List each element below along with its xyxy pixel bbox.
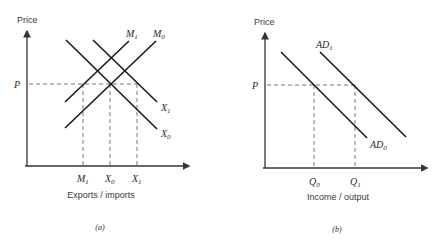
- panel-a-y-axis-label: Price: [17, 15, 38, 25]
- panel-b-price-label: P: [251, 80, 258, 91]
- curve-ad1: [320, 52, 406, 137]
- tick-x1: X1: [131, 173, 142, 186]
- panel-b-y-axis-label: Price: [254, 17, 275, 27]
- label-ad1: AD1: [315, 39, 333, 52]
- panel-a-x-axis-label: Exports / imports: [67, 190, 135, 200]
- label-x1: X1: [160, 102, 171, 115]
- panel-a: Price P M1 M0 X1 X0 M1 X0 X1 Exports / i…: [13, 15, 189, 232]
- label-ad0: AD0: [369, 139, 387, 152]
- label-x0: X0: [160, 128, 171, 141]
- label-m1: M1: [125, 28, 138, 41]
- diagram-canvas: Price P M1 M0 X1 X0 M1 X0 X1 Exports / i…: [0, 0, 433, 247]
- tick-q0: Q0: [309, 176, 320, 189]
- panel-b-x-axis-label: Income / output: [307, 192, 370, 202]
- panel-a-caption: (a): [95, 223, 105, 232]
- tick-x0: X0: [104, 173, 115, 186]
- label-m0: M0: [152, 28, 165, 41]
- curve-ad0: [281, 52, 367, 138]
- panel-b: Price P AD1 AD0 Q0 Q1 Income / output (b…: [251, 17, 427, 234]
- tick-m1: M1: [76, 173, 89, 186]
- panel-a-price-label: P: [13, 79, 20, 90]
- panel-b-caption: (b): [332, 225, 342, 234]
- tick-q1: Q1: [350, 176, 361, 189]
